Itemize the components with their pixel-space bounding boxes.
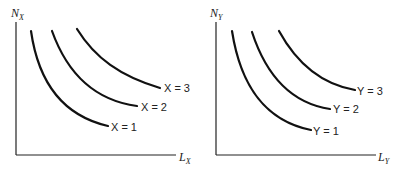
isoquant-y-3: [279, 31, 355, 90]
curve-label-y-3: Y = 3: [357, 85, 383, 97]
isoquant-x-1: [31, 31, 108, 126]
x-axis-label-x: LX: [178, 150, 192, 166]
curve-label-x-3: X = 3: [164, 82, 190, 94]
panel-y: NY LY Y = 1 Y = 2 Y = 3: [209, 6, 391, 166]
curve-label-x-2: X = 2: [141, 101, 167, 113]
isoquant-x-2: [52, 31, 137, 106]
curve-label-y-2: Y = 2: [333, 103, 359, 115]
isoquant-y-1: [232, 31, 311, 130]
curve-label-x-1: X = 1: [111, 121, 137, 133]
y-axis-label-y: NY: [209, 6, 224, 22]
x-axis-label-y: LY: [377, 150, 391, 166]
y-axis-label-x: NX: [10, 6, 25, 22]
panel-x: NX LX X = 1 X = 2 X = 3: [10, 6, 192, 166]
isoquant-x-3: [77, 29, 160, 88]
curve-label-y-1: Y = 1: [313, 125, 339, 137]
isoquant-diagrams: NX LX X = 1 X = 2 X = 3 NY LY Y = 1 Y = …: [0, 0, 397, 175]
isoquant-y-2: [252, 32, 330, 109]
